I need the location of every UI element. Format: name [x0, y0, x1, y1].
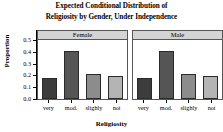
x-axis-tick-marks	[132, 100, 223, 103]
chart-title-line-1: Expected Conditional Distribution of	[0, 1, 223, 12]
x-axis-tick-mark	[166, 100, 167, 103]
chart-title: Expected Conditional Distribution of Rel…	[0, 1, 223, 22]
bar-very[interactable]	[137, 78, 152, 99]
chart-title-line-2: Religiosity by Gender, Under Independenc…	[0, 12, 223, 23]
x-axis-tick-mark	[48, 100, 49, 103]
y-axis-tick-label: 0.3	[23, 60, 31, 66]
y-axis-label: Proportion	[3, 23, 11, 79]
y-axis-tick-label: 0.0	[23, 96, 31, 102]
x-axis-tick-label: slighly	[178, 104, 200, 111]
x-axis-tick-label: not	[106, 104, 128, 111]
x-axis-tick-labels: verymod.slighlynot	[37, 104, 128, 111]
x-axis-tick-mark	[211, 100, 212, 103]
panel-plot-area	[132, 40, 223, 100]
panel-female: Female	[37, 30, 128, 100]
y-axis-tick-label: 0.2	[23, 72, 31, 78]
bar-mod[interactable]	[159, 51, 174, 99]
x-axis-container: verymod.slighlynotverymod.slighlynot	[37, 100, 223, 116]
panel-strip-label: Male	[132, 30, 223, 40]
x-axis-tick-mark	[93, 100, 94, 103]
x-axis-tick-marks	[37, 100, 128, 103]
x-axis-tick-label: very	[132, 104, 154, 111]
y-axis: 0.00.10.20.30.40.5	[14, 30, 36, 104]
x-axis-tick-label: slighly	[83, 104, 105, 111]
bar-mod[interactable]	[64, 51, 79, 99]
x-axis-tick-mark	[143, 100, 144, 103]
x-axis-tick-label: mod.	[155, 104, 177, 111]
x-axis-female: verymod.slighlynot	[37, 100, 128, 116]
panel-male: Male	[132, 30, 223, 100]
bar-not[interactable]	[108, 76, 123, 99]
bar-group	[133, 40, 222, 99]
bar-slighly[interactable]	[181, 74, 196, 99]
y-axis-tick-label: 0.5	[23, 37, 31, 43]
y-axis-tick-label: 0.4	[23, 49, 31, 55]
bar-very[interactable]	[42, 78, 57, 99]
panel-strip-label: Female	[37, 30, 128, 40]
bar-slighly[interactable]	[86, 74, 101, 99]
bar-group	[38, 40, 127, 99]
bar-not[interactable]	[203, 76, 218, 99]
x-axis-tick-label: not	[201, 104, 223, 111]
panel-plot-area	[37, 40, 128, 100]
x-axis-tick-mark	[188, 100, 189, 103]
x-axis-tick-mark	[71, 100, 72, 103]
x-axis-tick-label: mod.	[60, 104, 82, 111]
panel-container: FemaleMale	[37, 30, 223, 100]
y-axis-tick-label: 0.1	[23, 84, 31, 90]
x-axis-label: Religiosity	[0, 120, 223, 128]
x-axis-tick-label: very	[37, 104, 59, 111]
x-axis-tick-mark	[116, 100, 117, 103]
x-axis-tick-labels: verymod.slighlynot	[132, 104, 223, 111]
x-axis-male: verymod.slighlynot	[132, 100, 223, 116]
